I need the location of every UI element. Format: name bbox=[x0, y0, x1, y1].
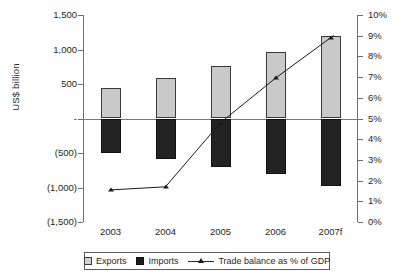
legend-label-trade-balance: Trade balance as % of GDP bbox=[218, 256, 330, 266]
y-tick-label-right: 2% bbox=[368, 176, 382, 186]
x-axis-label: 2007f bbox=[319, 226, 343, 237]
plot-area: 1,5001,000500-(500)(1,000)(1,500) 10%9%8… bbox=[83, 15, 358, 222]
y-tick-right bbox=[358, 77, 363, 78]
y-tick-label-left: - bbox=[35, 114, 77, 124]
y-tick-right bbox=[358, 119, 363, 120]
y-tick-right bbox=[358, 139, 363, 140]
legend-item-imports[interactable]: Imports bbox=[136, 256, 178, 266]
y-tick-right bbox=[358, 56, 363, 57]
chart-legend: Exports Imports Trade balance as % of GD… bbox=[84, 252, 330, 270]
line-marker-triangle-icon bbox=[108, 187, 114, 191]
x-axis-label: 2004 bbox=[155, 226, 176, 237]
legend-label-exports: Exports bbox=[96, 256, 127, 266]
y-tick-label-left: 1,500 bbox=[35, 10, 77, 20]
y-tick-left bbox=[78, 222, 83, 223]
y-tick-label-right: 3% bbox=[368, 155, 382, 165]
y-tick-label-right: 8% bbox=[368, 51, 382, 61]
legend-item-exports[interactable]: Exports bbox=[84, 256, 127, 266]
line-marker-triangle-icon bbox=[218, 120, 224, 124]
y-tick-label-right: 5% bbox=[368, 114, 382, 124]
y-tick-right bbox=[358, 15, 363, 16]
legend-swatch-exports-icon bbox=[84, 257, 92, 265]
y-tick-label-left: 1,000 bbox=[35, 45, 77, 55]
line-marker-triangle-icon bbox=[328, 35, 334, 39]
legend-item-trade-balance[interactable]: Trade balance as % of GDP bbox=[188, 256, 330, 266]
y-tick-label-right: 6% bbox=[368, 93, 382, 103]
y-tick-label-right: 10% bbox=[368, 10, 387, 20]
x-axis-label: 2005 bbox=[210, 226, 231, 237]
y-tick-right bbox=[358, 181, 363, 182]
y-tick-label-left: (1,000) bbox=[35, 183, 77, 193]
y-tick-right bbox=[358, 98, 363, 99]
y-tick-right bbox=[358, 36, 363, 37]
trade-balance-polyline bbox=[111, 38, 331, 190]
line-marker-triangle-icon bbox=[273, 76, 279, 80]
line-marker-triangle-icon bbox=[163, 184, 169, 188]
y-tick-label-right: 7% bbox=[368, 72, 382, 82]
y-tick-right bbox=[358, 222, 363, 223]
y-tick-label-left: (500) bbox=[35, 148, 77, 158]
y-tick-right bbox=[358, 201, 363, 202]
y-tick-label-right: 4% bbox=[368, 134, 382, 144]
y-tick-label-right: 1% bbox=[368, 196, 382, 206]
legend-label-imports: Imports bbox=[148, 256, 178, 266]
chart-container: US$ billion 1,5001,000500-(500)(1,000)(1… bbox=[0, 0, 413, 276]
y-tick-label-left: 500 bbox=[35, 79, 77, 89]
trade-balance-line-series bbox=[83, 15, 358, 222]
y-axis-title: US$ billion bbox=[10, 42, 24, 132]
y-tick-right bbox=[358, 160, 363, 161]
y-tick-label-left: (1,500) bbox=[35, 217, 77, 227]
y-tick-label-right: 0% bbox=[368, 217, 382, 227]
x-axis-label: 2006 bbox=[265, 226, 286, 237]
legend-line-triangle-icon bbox=[188, 257, 214, 265]
x-axis-label: 2003 bbox=[100, 226, 121, 237]
legend-swatch-imports-icon bbox=[136, 257, 144, 265]
y-tick-label-right: 9% bbox=[368, 31, 382, 41]
